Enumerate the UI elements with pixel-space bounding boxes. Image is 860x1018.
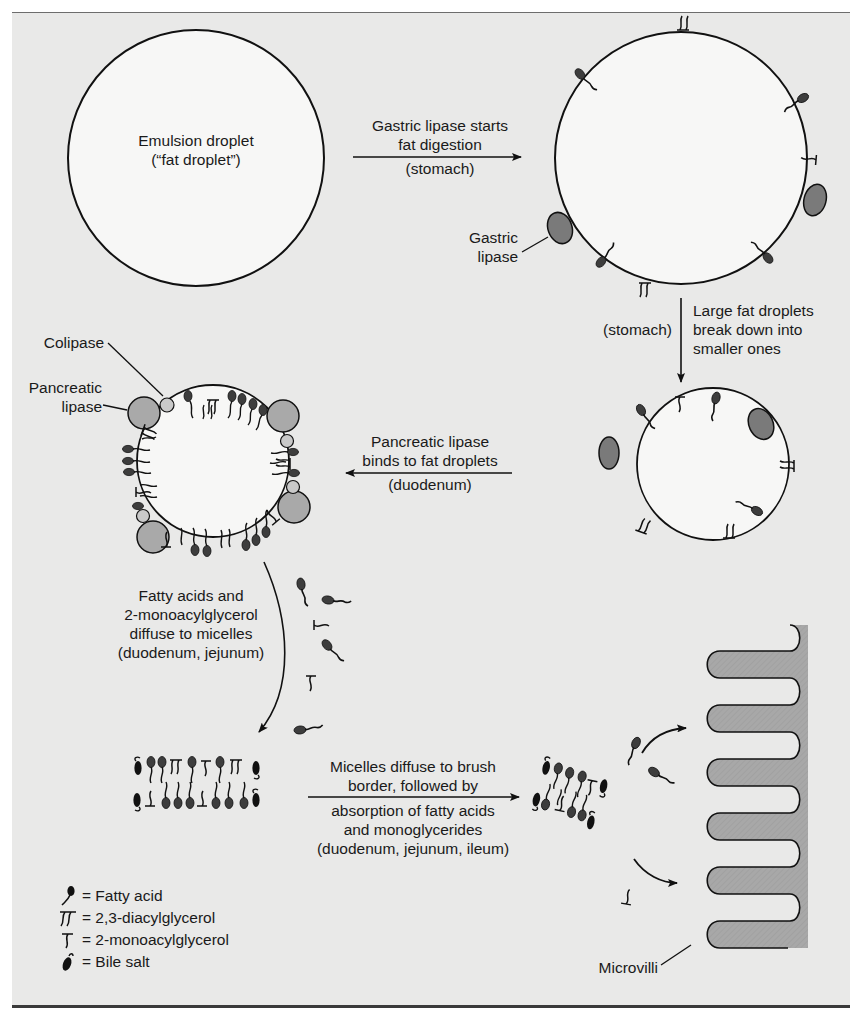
gastric-lipase-text-2: lipase (430, 247, 518, 266)
arrow-absorb-lower (634, 859, 677, 883)
legend-label: = 2-monoacylglycerol (82, 929, 229, 951)
step3-location: (duodenum) (340, 475, 520, 494)
micelle-right (529, 756, 611, 831)
step5-text-4: and monoglycerides (300, 820, 526, 839)
legend-label: = Bile salt (82, 951, 150, 973)
gastric-droplet (543, 16, 830, 297)
legend-label: = Fatty acid (82, 885, 163, 907)
step2-label: Large fat droplets break down into small… (693, 301, 814, 358)
micelle-left (133, 757, 259, 811)
step3-label: Pancreatic lipase binds to fat droplets … (340, 432, 520, 494)
step1-text-2: fat digestion (350, 135, 530, 154)
step2-text-1: Large fat droplets (693, 301, 814, 320)
microvilli (707, 625, 808, 948)
colipase-label: Colipase (14, 333, 104, 352)
step5-text-3: absorption of fatty acids (300, 801, 526, 820)
step5-label: Micelles diffuse to brush border, follow… (300, 757, 526, 858)
step1-label: Gastric lipase starts fat digestion (sto… (350, 116, 530, 178)
diacylglycerol-icon (58, 907, 78, 929)
pancreatic-lipase-label: Pancreatic lipase (4, 378, 102, 416)
step4-label: Fatty acids and 2-monoacylglycerol diffu… (98, 586, 284, 662)
gastric-lipase-text-1: Gastric (430, 228, 518, 247)
microvilli-label: Microvilli (560, 958, 658, 977)
pancreatic-lipase-text-1: Pancreatic (4, 378, 102, 397)
step2-location: (stomach) (560, 320, 672, 339)
step1-text-1: Gastric lipase starts (350, 116, 530, 135)
legend-label: = 2,3-diacylglycerol (82, 907, 215, 929)
pancreatic-droplet (123, 385, 311, 557)
free-molecules (294, 577, 352, 734)
arrow-absorb-upper (642, 728, 686, 753)
step2-text-2: break down into (693, 320, 814, 339)
small-droplet (599, 388, 794, 540)
emulsion-droplet-title: Emulsion droplet (96, 131, 296, 150)
step2-text-3: smaller ones (693, 339, 814, 358)
step4-text-3: diffuse to micelles (98, 624, 284, 643)
step4-text-1: Fatty acids and (98, 586, 284, 605)
fatty-acid-icon (58, 885, 78, 907)
emulsion-droplet-label: Emulsion droplet (“fat droplet”) (96, 131, 296, 169)
pancreatic-lipase-text-2: lipase (4, 397, 102, 416)
step1-location: (stomach) (350, 159, 530, 178)
step5-text-2: border, followed by (300, 776, 526, 795)
step5-text-1: Micelles diffuse to brush (300, 757, 526, 776)
emulsion-droplet-subtitle: (“fat droplet”) (96, 150, 296, 169)
step3-text-2: binds to fat droplets (340, 451, 520, 470)
step4-location: (duodenum, jejunum) (98, 643, 284, 662)
monoacylglycerol-icon (58, 929, 78, 951)
gastric-lipase-label: Gastric lipase (430, 228, 518, 266)
step5-location: (duodenum, jejunum, ileum) (300, 839, 526, 858)
bile-salt-icon (58, 951, 78, 973)
step4-text-2: 2-monoacylglycerol (98, 605, 284, 624)
step3-text-1: Pancreatic lipase (340, 432, 520, 451)
